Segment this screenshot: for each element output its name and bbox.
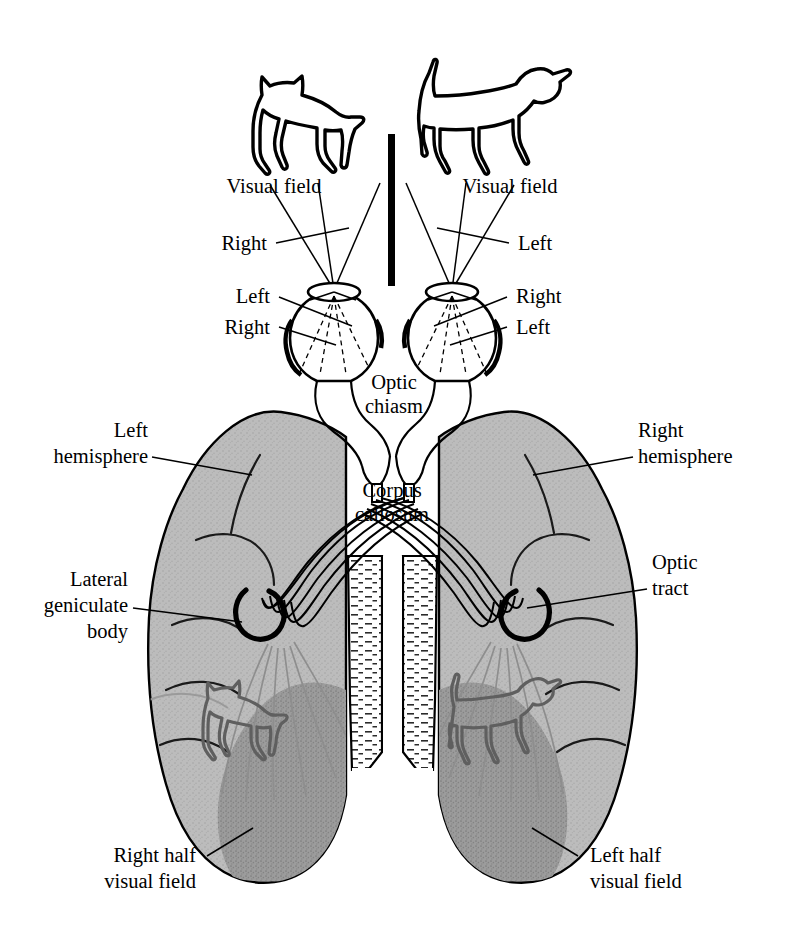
visual-field-right-text: Visual field	[463, 175, 558, 197]
left-hemisphere-line2: hemisphere	[54, 445, 149, 468]
right-half-vf-line1: Right half	[113, 844, 196, 867]
label-visual-field-right: Visual field	[463, 175, 558, 197]
left-eye-mid-label: Left	[236, 285, 270, 307]
right-eye-lower-label: Left	[516, 316, 550, 338]
corpus-callosum-bands	[348, 556, 437, 828]
visual-pathway-diagram: Visual field Visual field Right Left Lef…	[0, 0, 785, 941]
right-eye-upper-label: Left	[518, 232, 552, 254]
midline-divider-bar	[388, 134, 395, 286]
corpus-callosum-line2: callosum	[355, 503, 429, 525]
label-visual-field-left: Visual field	[227, 175, 322, 197]
left-half-vf-line1: Left half	[590, 844, 661, 866]
optic-chiasm-line2: chiasm	[365, 395, 423, 417]
cat-outline-top	[238, 70, 368, 175]
corpus-callosum-line1: Corpus	[362, 479, 421, 502]
optic-tract-line2: tract	[652, 577, 689, 599]
lgb-line2: geniculate	[44, 594, 128, 617]
optic-chiasm-line1: Optic	[371, 371, 417, 394]
visual-field-left-text: Visual field	[227, 175, 322, 197]
optic-tract-line1: Optic	[652, 551, 698, 574]
lgb-line1: Lateral	[70, 568, 128, 590]
lgb-line3: body	[87, 620, 129, 643]
figure-canvas: Visual field Visual field Right Left Lef…	[0, 0, 785, 941]
left-eye-upper-label: Right	[221, 232, 267, 255]
left-half-vf-line2: visual field	[590, 870, 682, 892]
left-eye-lower-label: Right	[224, 316, 270, 339]
right-half-vf-line2: visual field	[104, 870, 196, 892]
right-eye-mid-label: Right	[516, 285, 562, 308]
right-hemisphere-line1: Right	[638, 419, 684, 442]
right-hemisphere-line2: hemisphere	[638, 445, 733, 468]
left-hemisphere-line1: Left	[114, 419, 148, 441]
